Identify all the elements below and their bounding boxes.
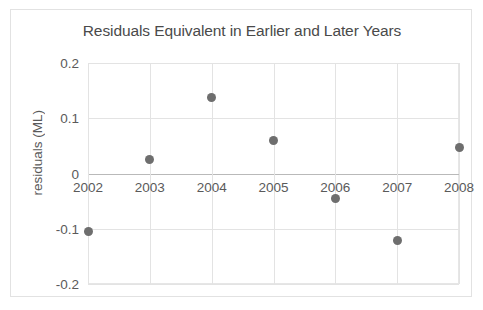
plot-area: 0.20.10-0.1-0.2 200220032004200520062007… [88,63,459,284]
y-tick-label: -0.1 [56,221,79,236]
data-point [393,236,402,245]
y-axis-title: residuals (ML) [30,110,50,196]
chart-title: Residuals Equivalent in Earlier and Late… [11,22,473,40]
gridline-vertical [397,63,398,284]
x-tick-label: 2007 [382,180,412,195]
data-point [455,143,464,152]
chart-frame: Residuals Equivalent in Earlier and Late… [10,9,472,297]
data-point [84,227,93,236]
gridline-vertical [335,63,336,284]
data-point [331,194,340,203]
gridline-horizontal [88,284,459,285]
y-tick-label: 0.2 [60,56,79,71]
x-tick-label: 2003 [135,180,165,195]
gridline-vertical [88,63,89,284]
y-tick-label: 0.1 [60,111,79,126]
x-tick-label: 2008 [444,180,474,195]
gridline-vertical [274,63,275,284]
x-tick-label: 2006 [320,180,350,195]
gridline-vertical [459,63,460,284]
data-point [207,93,216,102]
gridline-vertical [150,63,151,284]
x-tick-label: 2002 [73,180,103,195]
data-point [269,136,278,145]
x-tick-label: 2004 [197,180,227,195]
x-tick-label: 2005 [258,180,288,195]
data-point [145,155,154,164]
y-tick-label: -0.2 [56,277,79,292]
